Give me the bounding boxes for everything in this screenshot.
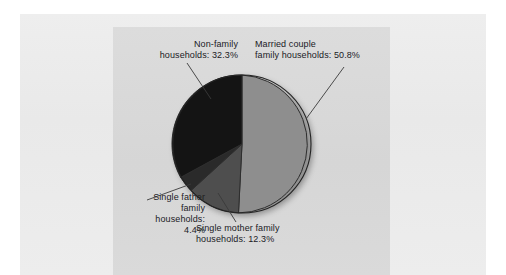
chart-figure-panel: Non-family households: 32.3% Married cou… [113,27,390,275]
pie-slice-married-couple [239,75,308,213]
screenshot-root: Non-family households: 32.3% Married cou… [0,0,506,275]
pie-label-married-couple: Married couple family households: 50.8% [255,39,395,61]
leader-line-married-couple [306,67,344,119]
pie-label-single-father: Single father family households: 4.4% [107,192,205,236]
pie-label-single-mother: Single mother family households: 12.3% [196,223,346,245]
pie-chart: Non-family households: 32.3% Married cou… [113,27,390,275]
pie-label-non-family: Non-family households: 32.3% [116,39,238,61]
